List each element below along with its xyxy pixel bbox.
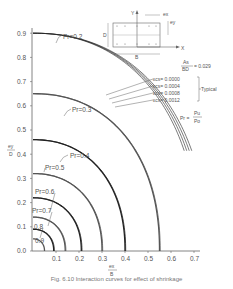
y-ticks: 0.00.10.20.30.40.50.60.70.80.9	[17, 30, 32, 255]
x-axis-label: ex B	[108, 263, 117, 277]
y-tick-label: 0.8	[17, 54, 26, 61]
svg-text:εcs= 0.0012: εcs= 0.0012	[153, 97, 180, 103]
y-tick-label: 0.9	[17, 30, 26, 37]
svg-text:As: As	[183, 59, 189, 65]
label-pr-0.9: 0.9	[35, 237, 44, 244]
y-tick-label: 0.1	[17, 223, 26, 230]
svg-text:Pu: Pu	[194, 110, 200, 116]
y-tick-label: 0.3	[17, 175, 26, 182]
label-pr-0.8: 0.8	[34, 223, 43, 230]
y-tick-label: 0.4	[17, 151, 26, 158]
steel-ratio: As BD = 0.029	[181, 59, 211, 72]
pr-definition: Pr = Pu Po	[180, 110, 202, 124]
curve-p_r=0.3	[33, 94, 160, 251]
svg-text:ex: ex	[163, 11, 169, 17]
svg-text:ey: ey	[8, 143, 14, 149]
shrinkage-legend: εcs= 0.0000 εcs= 0.0004 εcs= 0.0008 εcs=…	[106, 76, 217, 107]
y-tick-label: 0.2	[17, 199, 26, 206]
typical-label: Typical	[201, 86, 217, 92]
curves	[33, 33, 192, 251]
svg-text:Po: Po	[194, 118, 200, 124]
label-pr-0.6: Pr=0.6	[35, 188, 55, 195]
svg-text:Y: Y	[131, 10, 135, 16]
svg-text:D: D	[103, 32, 107, 38]
svg-text:ex: ex	[109, 263, 115, 269]
y-tick-label: 0.0	[17, 247, 26, 254]
x-tick-label: 0.3	[98, 255, 107, 262]
svg-text:X: X	[181, 45, 185, 51]
label-pr-0.3: Pr=0.3	[72, 106, 92, 113]
curve-p_r=0.3	[33, 94, 160, 251]
x-tick-label: 0.1	[52, 255, 61, 262]
x-tick-label: 0.2	[75, 255, 84, 262]
svg-text:BD: BD	[182, 66, 189, 72]
x-tick-label: 0.6	[167, 255, 176, 262]
section-diagram: X Y D B ex ey	[103, 10, 185, 60]
y-tick-label: 0.5	[17, 126, 26, 133]
svg-text:ey: ey	[170, 19, 176, 25]
y-tick-label: 0.7	[17, 78, 26, 85]
axes	[32, 28, 200, 251]
x-tick-label: 0.7	[190, 255, 199, 262]
x-tick-label: 0.4	[121, 255, 130, 262]
svg-text:Pr =: Pr =	[180, 115, 189, 121]
interaction-chart: 0.00.10.20.30.40.50.60.70.80.9 0.10.20.3…	[0, 0, 233, 289]
svg-text:= 0.029: = 0.029	[194, 63, 211, 69]
y-axis-label: ey D	[7, 143, 15, 157]
y-tick-label: 0.6	[17, 102, 26, 109]
curve-labels: Pr=0.2 Pr=0.3 Pr=0.4 Pr=0.5 Pr=0.6 Pr=0.…	[32, 33, 92, 244]
svg-text:D: D	[9, 151, 13, 157]
svg-text:εcs= 0.0000: εcs= 0.0000	[153, 76, 180, 82]
svg-text:εcs= 0.0008: εcs= 0.0008	[153, 90, 180, 96]
x-tick-label: 0.5	[144, 255, 153, 262]
figure-caption: Fig. 6.10 Interaction curves for effect …	[0, 276, 233, 282]
label-pr-0.5: Pr=0.5	[45, 164, 65, 171]
svg-text:B: B	[135, 54, 139, 60]
label-pr-0.2: Pr=0.2	[63, 33, 83, 40]
label-pr-0.7: Pr=0.7	[32, 207, 52, 214]
svg-text:εcs= 0.0004: εcs= 0.0004	[153, 83, 180, 89]
x-ticks: 0.10.20.30.40.50.60.7	[52, 251, 199, 262]
label-pr-0.4: Pr=0.4	[70, 152, 90, 159]
